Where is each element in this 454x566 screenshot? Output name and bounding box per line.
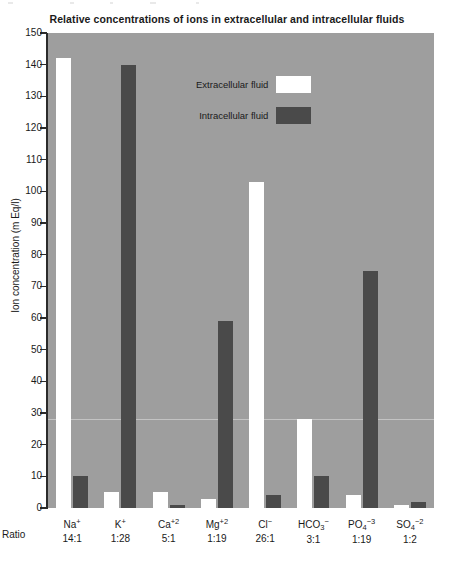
- y-axis-tick-label: 110: [6, 155, 42, 165]
- x-axis-labels: Ratio Na+14:1K+1:28Ca+25:1Mg+21:19Cl−26:…: [0, 512, 454, 566]
- y-axis-tick-label: 140: [6, 60, 42, 70]
- y-axis-tick-labels: 1501401301201101009080706050403020100: [0, 0, 42, 566]
- bar-SO4-intracellular: [411, 502, 426, 508]
- y-axis-tick-label: 50: [6, 345, 42, 355]
- y-axis-tick-label: 150: [6, 28, 42, 38]
- bar-PO4-extracellular: [346, 495, 361, 508]
- bar-HCO3-extracellular: [297, 419, 312, 508]
- ratio-row-label: Ratio: [2, 529, 48, 540]
- legend-item-intracellular: Intracellular fluid: [196, 107, 311, 124]
- chart-legend: Extracellular fluidIntracellular fluid: [196, 76, 311, 138]
- y-axis-tick-label: 130: [6, 91, 42, 101]
- y-axis-tick-label: 30: [6, 408, 42, 418]
- bar-SO4-extracellular: [394, 505, 409, 508]
- bar-Ca-extracellular: [153, 492, 168, 508]
- y-axis-tick-label: 10: [6, 471, 42, 481]
- bar-K-extracellular: [104, 492, 119, 508]
- x-axis-group-SO4: SO4−21:2: [380, 515, 440, 547]
- chart-title: Relative concentrations of ions in extra…: [0, 13, 454, 25]
- bar-Cl-intracellular: [266, 495, 281, 508]
- bar-HCO3-intracellular: [314, 476, 329, 508]
- y-axis-tick-label: 120: [6, 123, 42, 133]
- y-axis-title: Ion concentration (m Eq/l): [10, 171, 21, 341]
- dark-gray-swatch: [276, 107, 311, 124]
- bar-K-intracellular: [121, 65, 136, 508]
- bar-Mg-extracellular: [201, 499, 216, 509]
- legend-item-extracellular: Extracellular fluid: [196, 76, 311, 93]
- bar-Cl-extracellular: [249, 182, 264, 508]
- bar-Na-intracellular: [73, 476, 88, 508]
- legend-label: Intracellular fluid: [199, 110, 268, 121]
- y-axis-tick-label: 20: [6, 440, 42, 450]
- chart-figure: Relative concentrations of ions in extra…: [0, 0, 454, 566]
- bar-Na-extracellular: [56, 58, 71, 508]
- bar-Ca-intracellular: [170, 505, 185, 508]
- bar-PO4-intracellular: [363, 271, 378, 509]
- legend-label: Extracellular fluid: [196, 79, 268, 90]
- white-swatch: [276, 76, 311, 93]
- x-axis-ion-label: SO4−2: [380, 515, 440, 532]
- bar-Mg-intracellular: [218, 321, 233, 508]
- y-axis-tick-label: 40: [6, 376, 42, 386]
- x-axis-ratio-value: 1:2: [380, 532, 440, 547]
